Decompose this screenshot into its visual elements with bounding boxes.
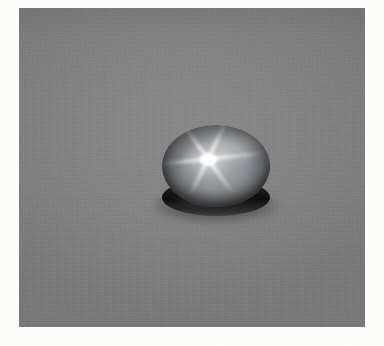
gemstone-dome (162, 125, 270, 207)
card-top-shading (19, 8, 365, 34)
gemstone (160, 121, 272, 221)
grey-card-background (19, 8, 365, 327)
photograph-star-sapphire (0, 0, 384, 346)
gemstone-rim-shading (162, 125, 270, 207)
